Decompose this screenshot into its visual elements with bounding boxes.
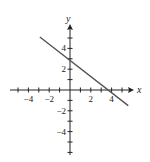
x-tick-label: −4 <box>24 94 34 104</box>
x-tick-label: 4 <box>109 94 114 104</box>
x-tick-label: −2 <box>44 94 54 104</box>
y-tick-label: −2 <box>56 106 66 116</box>
y-tick-label: 4 <box>62 43 67 53</box>
y-tick-label: −4 <box>56 127 66 137</box>
x-axis-label: x <box>136 84 142 95</box>
y-axis-label: y <box>65 13 71 24</box>
coordinate-plane: xy−4−22442−2−4 <box>0 0 150 162</box>
x-tick-label: 2 <box>89 94 94 104</box>
y-tick-label: 2 <box>62 64 67 74</box>
